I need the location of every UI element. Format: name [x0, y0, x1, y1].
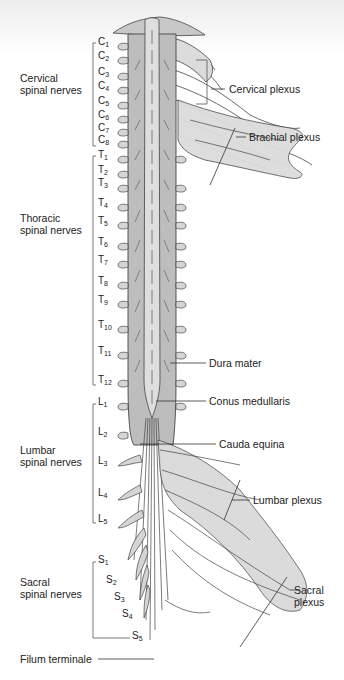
segment-label-s4: S4: [122, 609, 133, 622]
segment-label-t10: T10: [98, 320, 112, 333]
segment-label-t9: T9: [98, 295, 108, 308]
brachial-plexus-label: Brachial plexus: [249, 131, 320, 143]
segment-label-t12: T12: [98, 375, 112, 388]
segment-label-t3: T3: [98, 178, 108, 191]
segment-label-l1: L1: [98, 397, 107, 410]
segment-label-c4: C4: [98, 81, 109, 94]
segment-label-s1: S1: [98, 555, 109, 568]
segment-label-t8: T8: [98, 276, 108, 289]
segment-label-l5: L5: [98, 514, 107, 527]
segment-label-c8: C8: [98, 135, 109, 148]
sacral-plexus-label: Sacral plexus: [294, 584, 324, 608]
segment-label-t4: T4: [98, 198, 108, 211]
segment-label-s5: S5: [132, 631, 143, 644]
segment-label-c2: C2: [98, 51, 109, 64]
segment-label-l4: L4: [98, 488, 107, 501]
segment-label-t5: T5: [98, 216, 108, 229]
segment-label-l3: L3: [98, 456, 107, 469]
segment-label-s2: S2: [106, 575, 117, 588]
segment-label-t1: T1: [98, 150, 108, 163]
sacral-region-label: Sacral spinal nerves: [20, 576, 82, 600]
lumbar-region-label: Lumbar spinal nerves: [20, 444, 82, 468]
cervical-region-label: Cervical spinal nerves: [20, 72, 82, 96]
dura-mater-label: Dura mater: [209, 357, 262, 369]
conus-medullaris-label: Conus medullaris: [209, 395, 290, 407]
segment-label-c5: C5: [98, 96, 109, 109]
thoracic-region-label: Thoracic spinal nerves: [20, 212, 82, 236]
segment-label-l2: L2: [98, 427, 107, 440]
segment-label-t11: T11: [98, 346, 111, 359]
segment-label-c1: C1: [98, 37, 109, 50]
segment-label-s3: S3: [114, 592, 125, 605]
segment-label-t6: T6: [98, 237, 108, 250]
segment-label-c3: C3: [98, 67, 109, 80]
lumbar-plexus-label: Lumbar plexus: [253, 494, 322, 506]
cauda-equina-label: Cauda equina: [219, 438, 284, 450]
cervical-plexus-label: Cervical plexus: [229, 83, 300, 95]
filum-terminale-label: Filum terminale: [20, 653, 92, 665]
segment-label-t7: T7: [98, 255, 108, 268]
